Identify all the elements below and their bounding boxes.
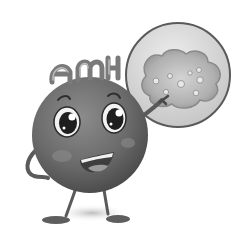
character-body	[32, 77, 148, 193]
amh-character-illustration	[0, 0, 248, 246]
right-cheek	[121, 138, 135, 148]
left-eye	[54, 107, 80, 137]
illustration-canvas: AMH	[0, 0, 248, 246]
letter-a	[52, 67, 70, 82]
left-cheek	[52, 150, 72, 162]
right-eye	[102, 103, 126, 133]
